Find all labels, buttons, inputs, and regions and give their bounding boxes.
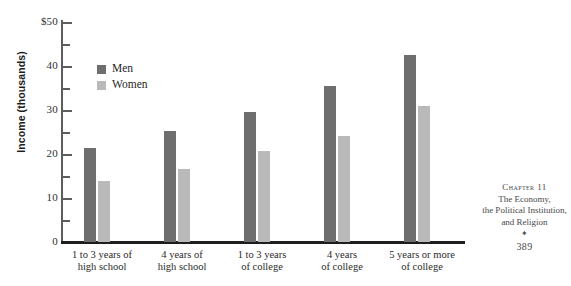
legend-swatch-men-icon: [97, 65, 106, 74]
bar-men-group-4: [324, 86, 336, 242]
legend-item-men: Men: [97, 62, 147, 76]
x-axis-label-group-3: 1 to 3 years of college: [216, 249, 308, 272]
legend-label-women: Women: [112, 79, 147, 91]
bar-women-group-2: [178, 169, 190, 242]
x-axis-label-group-5: 5 years or more of college: [376, 249, 468, 272]
x-axis-label-group-1: 1 to 3 years of high school: [56, 249, 148, 272]
footer-title-line-3: and Religion: [478, 217, 571, 229]
footer-page-number: 389: [478, 240, 571, 253]
legend-item-women: Women: [97, 78, 147, 92]
y-axis-tick-label: 0: [52, 236, 58, 247]
y-axis-tick-label: 40: [47, 60, 58, 71]
footer-title-line-1: The Economy,: [478, 194, 571, 206]
y-axis-tick-label: $50: [41, 16, 58, 27]
x-axis-label-group-4: 4 years of college: [296, 249, 388, 272]
footer-ornament-icon: ✦: [478, 228, 571, 240]
bar-women-group-3: [258, 151, 270, 242]
plot-area: [62, 22, 462, 242]
legend-swatch-women-icon: [97, 81, 106, 90]
y-axis-tick-label: 30: [47, 104, 58, 115]
legend-label-men: Men: [112, 63, 133, 75]
bar-men-group-1: [84, 148, 96, 242]
y-axis-tick-label: 20: [47, 148, 58, 159]
bar-women-group-1: [98, 181, 110, 242]
bar-men-group-3: [244, 112, 256, 242]
bar-men-group-5: [404, 55, 416, 242]
bar-women-group-4: [338, 136, 350, 242]
footer-title-line-2: the Political Institution,: [478, 205, 571, 217]
chart-legend: Men Women: [97, 62, 147, 94]
footer-chapter-number: Chapter 11: [478, 182, 571, 194]
page-running-footer: Chapter 11 The Economy, the Political In…: [478, 182, 571, 253]
y-axis-tick-label: 10: [47, 192, 58, 203]
x-axis-label-group-2: 4 years of high school: [136, 249, 228, 272]
bar-men-group-2: [164, 131, 176, 242]
bar-women-group-5: [418, 106, 430, 242]
y-axis-title: Income (thousands): [15, 37, 27, 167]
